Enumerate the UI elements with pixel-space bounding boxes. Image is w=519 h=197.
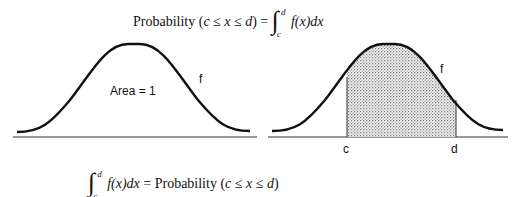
probability-text: Probability ( xyxy=(133,14,203,29)
upper-limit: d xyxy=(281,7,286,17)
leq-symbol: ≤ xyxy=(252,176,267,191)
right-curve-label: f xyxy=(440,62,443,76)
upper-limit: d xyxy=(97,169,102,179)
c-axis-label: c xyxy=(343,142,349,156)
equals-text: ) = xyxy=(252,14,272,29)
leq-symbol: ≤ xyxy=(231,176,246,191)
area-label: Area = 1 xyxy=(110,84,156,98)
lower-limit: c xyxy=(93,191,97,197)
left-curve-label: f xyxy=(199,72,202,86)
var-d: d xyxy=(267,176,274,191)
top-formula: Probability (c ≤ x ≤ d) = ∫dcf(x)dx xyxy=(133,8,324,38)
lower-limit: c xyxy=(277,29,281,39)
bottom-formula: ∫dcf(x)dx = Probability (c ≤ x ≤ d) xyxy=(88,170,279,197)
leq-symbol: ≤ xyxy=(231,14,246,29)
close-paren: ) xyxy=(274,176,279,191)
leq-symbol: ≤ xyxy=(210,14,225,29)
shaded-area-c-to-d xyxy=(272,44,503,137)
integrand: f(x)dx xyxy=(291,14,324,29)
probability-text: = Probability ( xyxy=(140,176,225,191)
integral-limits: dc xyxy=(95,173,107,197)
integral-limits: dc xyxy=(279,11,291,35)
d-axis-label: d xyxy=(451,142,458,156)
integrand: f(x)dx xyxy=(107,176,140,191)
